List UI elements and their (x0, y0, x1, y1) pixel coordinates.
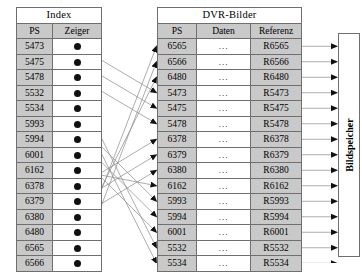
index-zeiger-cell (53, 256, 102, 272)
table-row: 5473...R5473 (158, 85, 302, 101)
index-ps-cell: 6380 (17, 209, 53, 225)
dvr-ps-cell: 5993 (158, 194, 197, 210)
dvr-referenz-cell: R6566 (251, 54, 302, 70)
table-row: 6380 (17, 209, 102, 225)
dvr-referenz-cell: R6380 (251, 163, 302, 179)
table-row: 5994...R5994 (158, 209, 302, 225)
dvr-daten-cell: ... (197, 147, 251, 163)
pointer-dot-icon (74, 167, 81, 174)
table-row: 6480...R6480 (158, 70, 302, 86)
dvr-daten-cell: ... (197, 54, 251, 70)
index-zeiger-cell (53, 101, 102, 117)
table-row: 6162 (17, 163, 102, 179)
pointer-dot-icon (74, 74, 81, 81)
dvr-table: DVR-Bilder PS Daten Referenz 6565...R656… (157, 7, 302, 272)
dvr-header-row: PS Daten Referenz (158, 23, 302, 39)
index-zeiger-cell (53, 163, 102, 179)
dvr-daten-cell: ... (197, 225, 251, 241)
dvr-ps-cell: 5473 (158, 85, 197, 101)
index-ps-cell: 6565 (17, 240, 53, 256)
dvr-ps-cell: 6480 (158, 70, 197, 86)
index-zeiger-cell (53, 178, 102, 194)
dvr-ps-cell: 5478 (158, 116, 197, 132)
pointer-dot-icon (74, 214, 81, 221)
table-row: 5478...R5478 (158, 116, 302, 132)
pointer-dot-icon (74, 105, 81, 112)
index-ps-cell: 5478 (17, 70, 53, 86)
dvr-ps-cell: 6001 (158, 225, 197, 241)
bildspeicher-box: Bildspeicher (338, 33, 360, 257)
table-row: 6566 (17, 256, 102, 272)
table-row: 5475 (17, 54, 102, 70)
index-ps-cell: 6378 (17, 178, 53, 194)
index-zeiger-cell (53, 85, 102, 101)
index-ps-cell: 6379 (17, 194, 53, 210)
index-header-row: PS Zeiger (17, 23, 102, 39)
table-row: 5478 (17, 70, 102, 86)
table-row: 5993 (17, 116, 102, 132)
index-title: Index (17, 8, 102, 24)
index-zeiger-cell (53, 132, 102, 148)
dvr-daten-cell: ... (197, 116, 251, 132)
dvr-ps-cell: 6565 (158, 39, 197, 55)
dvr-ps-cell: 5994 (158, 209, 197, 225)
dvr-referenz-cell: R6378 (251, 132, 302, 148)
index-ps-cell: 5475 (17, 54, 53, 70)
index-zeiger-cell (53, 225, 102, 241)
table-row: 6379 (17, 194, 102, 210)
dvr-referenz-cell: R6379 (251, 147, 302, 163)
pointer-dot-icon (74, 245, 81, 252)
index-ps-cell: 5993 (17, 116, 53, 132)
table-row: 6378...R6378 (158, 132, 302, 148)
dvr-ps-cell: 5475 (158, 101, 197, 117)
dvr-title: DVR-Bilder (158, 8, 302, 24)
index-table: Index PS Zeiger 547354755478553255345993… (16, 7, 102, 272)
table-row: 5473 (17, 39, 102, 55)
index-zeiger-cell (53, 209, 102, 225)
table-row: 6566...R6566 (158, 54, 302, 70)
table-row: 6565 (17, 240, 102, 256)
table-row: 5475...R5475 (158, 101, 302, 117)
dvr-referenz-cell: R6001 (251, 225, 302, 241)
dvr-daten-cell: ... (197, 85, 251, 101)
dvr-ps-cell: 6162 (158, 178, 197, 194)
pointer-dot-icon (74, 229, 81, 236)
dvr-ps-cell: 6379 (158, 147, 197, 163)
dvr-daten-cell: ... (197, 101, 251, 117)
table-row: 5532 (17, 85, 102, 101)
table-row: 5993...R5993 (158, 194, 302, 210)
dvr-daten-cell: ... (197, 178, 251, 194)
dvr-referenz-cell: R5532 (251, 240, 302, 256)
index-zeiger-cell (53, 147, 102, 163)
dvr-referenz-cell: R5994 (251, 209, 302, 225)
dvr-daten-cell: ... (197, 240, 251, 256)
dvr-ps-cell: 5534 (158, 256, 197, 272)
dvr-ps-cell: 6566 (158, 54, 197, 70)
pointer-dot-icon (74, 121, 81, 128)
dvr-daten-cell: ... (197, 256, 251, 272)
dvr-col-referenz: Referenz (251, 23, 302, 39)
dvr-title-row: DVR-Bilder (158, 8, 302, 24)
table-row: 6380...R6380 (158, 163, 302, 179)
dvr-daten-cell: ... (197, 132, 251, 148)
table-row: 6162...R6162 (158, 178, 302, 194)
table-row: 5532...R5532 (158, 240, 302, 256)
pointer-dot-icon (74, 198, 81, 205)
dvr-referenz-cell: R5993 (251, 194, 302, 210)
dvr-ps-cell: 6378 (158, 132, 197, 148)
dvr-col-ps: PS (158, 23, 197, 39)
pointer-dot-icon (74, 260, 81, 267)
dvr-daten-cell: ... (197, 39, 251, 55)
pointer-dot-icon (74, 152, 81, 159)
dvr-table-body: 6565...R65656566...R65666480...R64805473… (158, 39, 302, 272)
index-col-zeiger: Zeiger (53, 23, 102, 39)
dvr-daten-cell: ... (197, 194, 251, 210)
index-zeiger-cell (53, 194, 102, 210)
table-row: 6378 (17, 178, 102, 194)
dvr-referenz-cell: R5473 (251, 85, 302, 101)
dvr-daten-cell: ... (197, 209, 251, 225)
index-ps-cell: 5534 (17, 101, 53, 117)
dvr-col-daten: Daten (197, 23, 251, 39)
table-row: 6001 (17, 147, 102, 163)
index-ps-cell: 6001 (17, 147, 53, 163)
